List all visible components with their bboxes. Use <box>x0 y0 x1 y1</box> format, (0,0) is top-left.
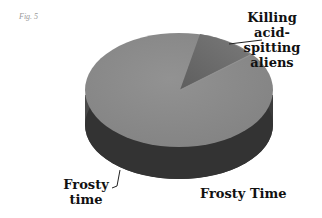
slice-label-killing-aliens: Killing acid- spitting aliens <box>232 10 312 70</box>
leader-line-frosty <box>112 170 120 188</box>
label-line: spitting <box>232 40 312 55</box>
label-line: Killing <box>232 10 312 25</box>
chart-title: Frosty Time <box>200 186 287 201</box>
label-line: acid- <box>232 25 312 40</box>
label-line: Frosty <box>60 177 112 192</box>
label-line: time <box>60 192 112 207</box>
label-line: aliens <box>232 55 312 70</box>
slice-label-frosty-time: Frosty time <box>60 177 112 207</box>
